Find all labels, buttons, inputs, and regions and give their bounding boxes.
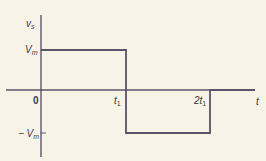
y-axis-label: vs xyxy=(26,18,35,30)
neg-vm-label: − Vm xyxy=(18,128,39,140)
vm-label: Vm xyxy=(25,44,38,56)
square-wave-diagram: vs Vm − Vm 0 t1 2t1 t xyxy=(0,0,266,161)
2t1-label: 2t1 xyxy=(193,95,206,107)
x-axis-label: t xyxy=(256,96,260,107)
origin-label: 0 xyxy=(33,95,39,106)
square-wave xyxy=(41,50,255,133)
t1-label: t1 xyxy=(114,95,121,107)
